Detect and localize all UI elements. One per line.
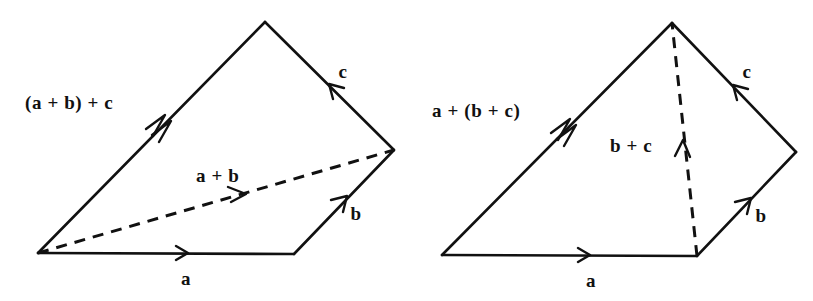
left-vector-b-arrowhead [331, 196, 347, 212]
left-vector-a-line [38, 253, 294, 254]
right-vector-b-line [697, 152, 796, 256]
vector-addition-figure: (a + b) + c a + b a b c a + ( [0, 0, 813, 301]
left-diagram-group: (a + b) + c a + b a b c [25, 22, 394, 289]
right-resultant-label: a + (b + c) [432, 100, 520, 122]
right-partial-sum-dashed-line [672, 23, 697, 256]
right-vector-c-label: c [742, 61, 751, 82]
left-vector-c-label: c [338, 61, 347, 82]
left-vector-b-line [294, 150, 394, 254]
left-vector-b-label: b [350, 203, 361, 224]
diagram-canvas: (a + b) + c a + b a b c a + ( [0, 0, 813, 301]
left-resultant-line [38, 22, 265, 253]
right-partial-sum-label: b + c [610, 135, 652, 156]
right-vector-b-label: b [755, 205, 766, 226]
left-vector-a-label: a [181, 268, 191, 289]
right-partial-sum-arrowhead [675, 140, 690, 157]
right-vector-a-label: a [586, 270, 596, 291]
left-partial-sum-label: a + b [196, 165, 239, 186]
right-diagram-group: a + (b + c) b + c a b c [432, 23, 796, 291]
right-vector-a-line [442, 255, 697, 256]
left-partial-sum-arrowhead [228, 187, 246, 202]
left-resultant-label: (a + b) + c [25, 92, 113, 114]
